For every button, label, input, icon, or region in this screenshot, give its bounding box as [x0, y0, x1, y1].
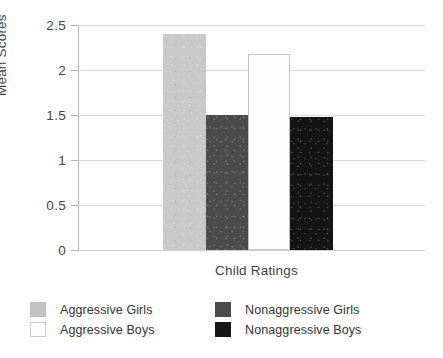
bar-aggressive-girls	[163, 34, 206, 250]
legend-label-aggressive-boys: Aggressive Boys	[60, 323, 155, 337]
legend-item-nonaggressive-girls: Nonaggressive Girls	[215, 300, 361, 319]
y-tick-mark-1.5	[71, 115, 78, 116]
legend-column-right: Nonaggressive Girls Nonaggressive Boys	[215, 300, 361, 340]
legend-swatch-white-icon	[30, 322, 46, 337]
bar-aggressive-boys	[248, 54, 290, 250]
gridline-2.5	[78, 25, 425, 26]
legend-item-aggressive-boys: Aggressive Boys	[30, 320, 155, 339]
y-tick-mark-2	[71, 70, 78, 71]
y-tick-label-1: 1	[6, 153, 66, 168]
bar-chart-figure: Mean Scores 2.5 2 1.5 1 0.5 0 Child Rati…	[0, 0, 443, 358]
y-tick-mark-2.5	[71, 25, 78, 26]
legend-swatch-black-icon	[215, 322, 231, 337]
legend-swatch-dark-gray-icon	[215, 302, 231, 317]
y-tick-mark-0.5	[71, 205, 78, 206]
y-axis-title: Mean Scores	[0, 0, 9, 96]
legend-label-nonaggressive-girls: Nonaggressive Girls	[245, 303, 359, 317]
gridline-baseline-0	[78, 250, 425, 251]
legend-swatch-light-gray-icon	[30, 302, 46, 317]
x-axis-title: Child Ratings	[215, 263, 298, 278]
legend-item-nonaggressive-boys: Nonaggressive Boys	[215, 320, 361, 339]
y-tick-label-2: 2	[6, 63, 66, 78]
bar-nonaggressive-girls	[206, 115, 248, 250]
y-tick-label-0: 0	[6, 243, 66, 258]
plot-area	[78, 25, 425, 250]
y-tick-label-1.5: 1.5	[6, 108, 66, 123]
legend-item-aggressive-girls: Aggressive Girls	[30, 300, 155, 319]
y-tick-label-2.5: 2.5	[6, 18, 66, 33]
legend-label-nonaggressive-boys: Nonaggressive Boys	[245, 323, 361, 337]
legend-column-left: Aggressive Girls Aggressive Boys	[30, 300, 155, 340]
x-axis-title-row: Child Ratings	[0, 263, 443, 278]
legend-label-aggressive-girls: Aggressive Girls	[60, 303, 153, 317]
y-tick-mark-0	[71, 250, 78, 251]
y-tick-label-0.5: 0.5	[6, 198, 66, 213]
y-tick-mark-1	[71, 160, 78, 161]
bar-nonaggressive-boys	[290, 117, 333, 250]
